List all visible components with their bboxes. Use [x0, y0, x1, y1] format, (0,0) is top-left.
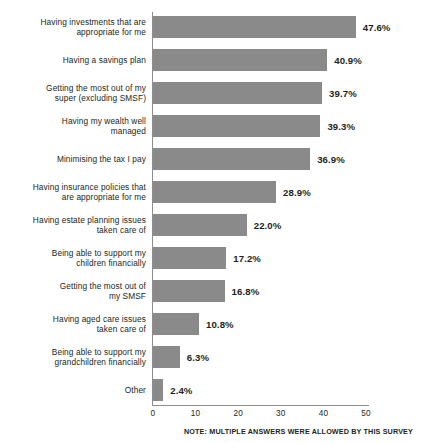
bar-value-label: 39.7% — [329, 88, 357, 99]
category-label: Having my wealth well managed — [0, 116, 146, 137]
bar — [153, 280, 225, 302]
bar-row: Other2.4% — [0, 379, 421, 401]
bar-row: Having insurance policies that are appro… — [0, 181, 421, 203]
chart-footnote: NOTE: MULTIPLE ANSWERS WERE ALLOWED BY T… — [0, 427, 413, 436]
bar-row: Being able to support my children financ… — [0, 247, 421, 269]
bar-value-label: 28.9% — [283, 187, 311, 198]
bar-value-label: 22.0% — [254, 220, 282, 231]
bar-value-label: 36.9% — [317, 154, 345, 165]
category-label: Being able to support my children financ… — [0, 248, 146, 269]
bar — [153, 16, 356, 38]
x-tick-label: 30 — [276, 409, 286, 418]
bar-row: Having aged care issues taken care of10.… — [0, 313, 421, 335]
bar-value-label: 6.3% — [187, 352, 209, 363]
bar — [153, 181, 276, 203]
x-tick-label: 50 — [361, 409, 371, 418]
bar — [153, 247, 226, 269]
bar — [153, 115, 320, 137]
bar — [153, 346, 180, 368]
category-label: Other — [0, 385, 146, 395]
bar-chart: Having investments that are appropriate … — [0, 0, 421, 443]
bar-row: Being able to support my grandchildren f… — [0, 346, 421, 368]
category-label: Getting the most out of my super (exclud… — [0, 83, 146, 104]
bar-row: Getting the most out of my super (exclud… — [0, 82, 421, 104]
bar-value-label: 47.6% — [363, 22, 391, 33]
bar-value-label: 17.2% — [233, 253, 261, 264]
bar-row: Having investments that are appropriate … — [0, 16, 421, 38]
bar-row: Getting the most out of my SMSF16.8% — [0, 280, 421, 302]
bar — [153, 82, 322, 104]
bar-value-label: 39.3% — [327, 121, 355, 132]
category-label: Having insurance policies that are appro… — [0, 182, 146, 203]
bar — [153, 379, 163, 401]
x-tick-label: 20 — [233, 409, 243, 418]
category-label: Having investments that are appropriate … — [0, 17, 146, 38]
bar-row: Minimising the tax I pay36.9% — [0, 148, 421, 170]
category-label: Minimising the tax I pay — [0, 154, 146, 164]
bar — [153, 313, 199, 335]
category-label: Having a savings plan — [0, 55, 146, 65]
bar-row: Having a savings plan40.9% — [0, 49, 421, 71]
category-label: Having estate planning issues taken care… — [0, 215, 146, 236]
category-label: Getting the most out of my SMSF — [0, 281, 146, 302]
bar-value-label: 10.8% — [206, 319, 234, 330]
x-tick-label: 0 — [151, 409, 156, 418]
x-tick-label: 40 — [319, 409, 329, 418]
bar-row: Having estate planning issues taken care… — [0, 214, 421, 236]
bar — [153, 49, 327, 71]
category-label: Being able to support my grandchildren f… — [0, 347, 146, 368]
bar-value-label: 40.9% — [334, 55, 362, 66]
bar — [153, 214, 247, 236]
plot-area: Having investments that are appropriate … — [0, 0, 421, 400]
x-axis-line — [152, 405, 369, 406]
category-label: Having aged care issues taken care of — [0, 314, 146, 335]
bar — [153, 148, 310, 170]
bar-value-label: 2.4% — [170, 385, 192, 396]
bar-value-label: 16.8% — [232, 286, 260, 297]
bar-row: Having my wealth well managed39.3% — [0, 115, 421, 137]
x-tick-label: 10 — [191, 409, 201, 418]
